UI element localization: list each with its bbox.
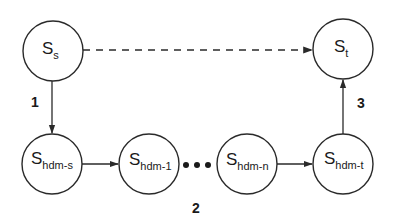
edge-label-1: 1	[31, 95, 39, 109]
node-label-s-t: St	[334, 38, 348, 59]
node-label-s-s: Ss	[42, 40, 59, 61]
edge-label-3: 3	[357, 96, 365, 110]
edge-label-2: 2	[192, 201, 200, 215]
node-label-s-hdm-n: Shdm-n	[226, 151, 269, 172]
diagram-canvas	[0, 0, 393, 222]
node-label-s-hdm-1: Shdm-1	[129, 151, 172, 172]
node-label-s-hdm-t: Shdm-t	[324, 150, 363, 171]
node-label-s-hdm-s: Shdm-s	[31, 150, 73, 171]
ellipsis-dots	[183, 162, 211, 168]
